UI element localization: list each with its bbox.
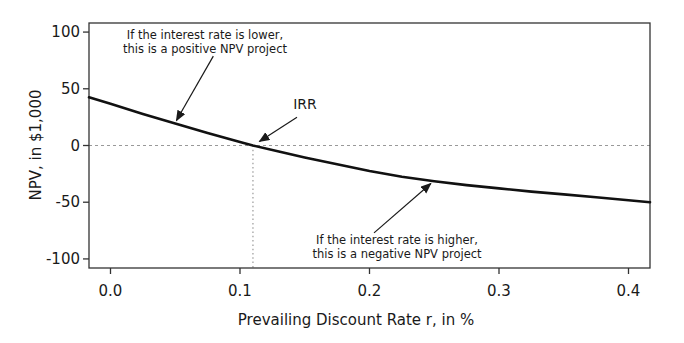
y-tick-label: 100 bbox=[51, 23, 80, 41]
npv-curve bbox=[89, 97, 650, 202]
annotation-lower-rate: If the interest rate is lower, this is a… bbox=[123, 28, 287, 56]
y-tick-label: -50 bbox=[56, 193, 81, 211]
x-tick-label: 0.2 bbox=[358, 282, 382, 300]
annotation-arrow-irr bbox=[259, 117, 297, 141]
y-tick-label: 50 bbox=[61, 80, 80, 98]
x-axis-title: Prevailing Discount Rate r, in % bbox=[238, 311, 474, 329]
irr-label: IRR bbox=[293, 97, 317, 111]
y-tick-label: 0 bbox=[70, 137, 80, 155]
chart-canvas: 0.00.10.20.30.4-100-50050100 bbox=[0, 0, 684, 343]
x-tick-label: 0.1 bbox=[228, 282, 252, 300]
annotation-arrow-lower-rate bbox=[176, 56, 213, 120]
annotation-arrow-higher-rate bbox=[374, 183, 431, 232]
y-axis-title: NPV, in $1,000 bbox=[27, 90, 45, 201]
x-tick-label: 0.3 bbox=[487, 282, 511, 300]
x-tick-label: 0.0 bbox=[99, 282, 123, 300]
annotation-higher-rate: If the interest rate is higher, this is … bbox=[312, 233, 481, 261]
y-tick-label: -100 bbox=[46, 250, 80, 268]
npv-vs-discount-rate-figure: 0.00.10.20.30.4-100-50050100 NPV, in $1,… bbox=[0, 0, 684, 343]
x-tick-label: 0.4 bbox=[617, 282, 641, 300]
